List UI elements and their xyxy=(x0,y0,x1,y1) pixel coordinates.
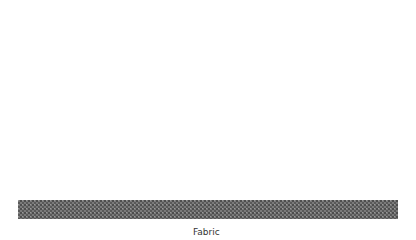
surfactant-diagram xyxy=(0,0,416,240)
fabric-label: Fabric xyxy=(193,227,220,237)
fabric-layer xyxy=(18,200,398,219)
